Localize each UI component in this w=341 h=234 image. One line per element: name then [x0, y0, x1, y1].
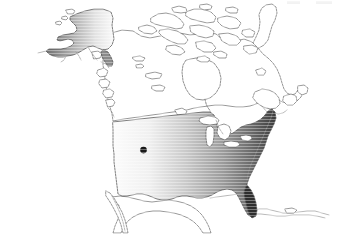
map-marker-group[interactable] — [140, 147, 146, 153]
region-alaska[interactable] — [38, 9, 114, 66]
north-america-map[interactable] — [0, 0, 341, 234]
region-caribbean[interactable] — [252, 208, 329, 218]
raster-artifacts — [271, 2, 332, 19]
map-figure — [0, 0, 341, 234]
marker-dot[interactable] — [140, 147, 146, 153]
region-greenland[interactable] — [253, 4, 277, 48]
